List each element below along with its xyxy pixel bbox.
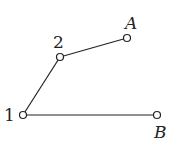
linkage-diagram: 1 2 A B bbox=[0, 0, 183, 148]
diagram-canvas: 1 2 A B bbox=[0, 0, 183, 148]
node-B-label: B bbox=[153, 122, 167, 142]
edge-2-A bbox=[60, 38, 127, 57]
node-A-circle bbox=[124, 35, 131, 42]
node-B-circle bbox=[154, 112, 161, 119]
edge-1-2 bbox=[23, 57, 60, 115]
node-2-label: 2 bbox=[53, 32, 64, 52]
node-2-circle bbox=[57, 54, 64, 61]
node-1-circle bbox=[20, 112, 27, 119]
node-1-label: 1 bbox=[4, 105, 15, 125]
node-A-label: A bbox=[123, 13, 137, 33]
